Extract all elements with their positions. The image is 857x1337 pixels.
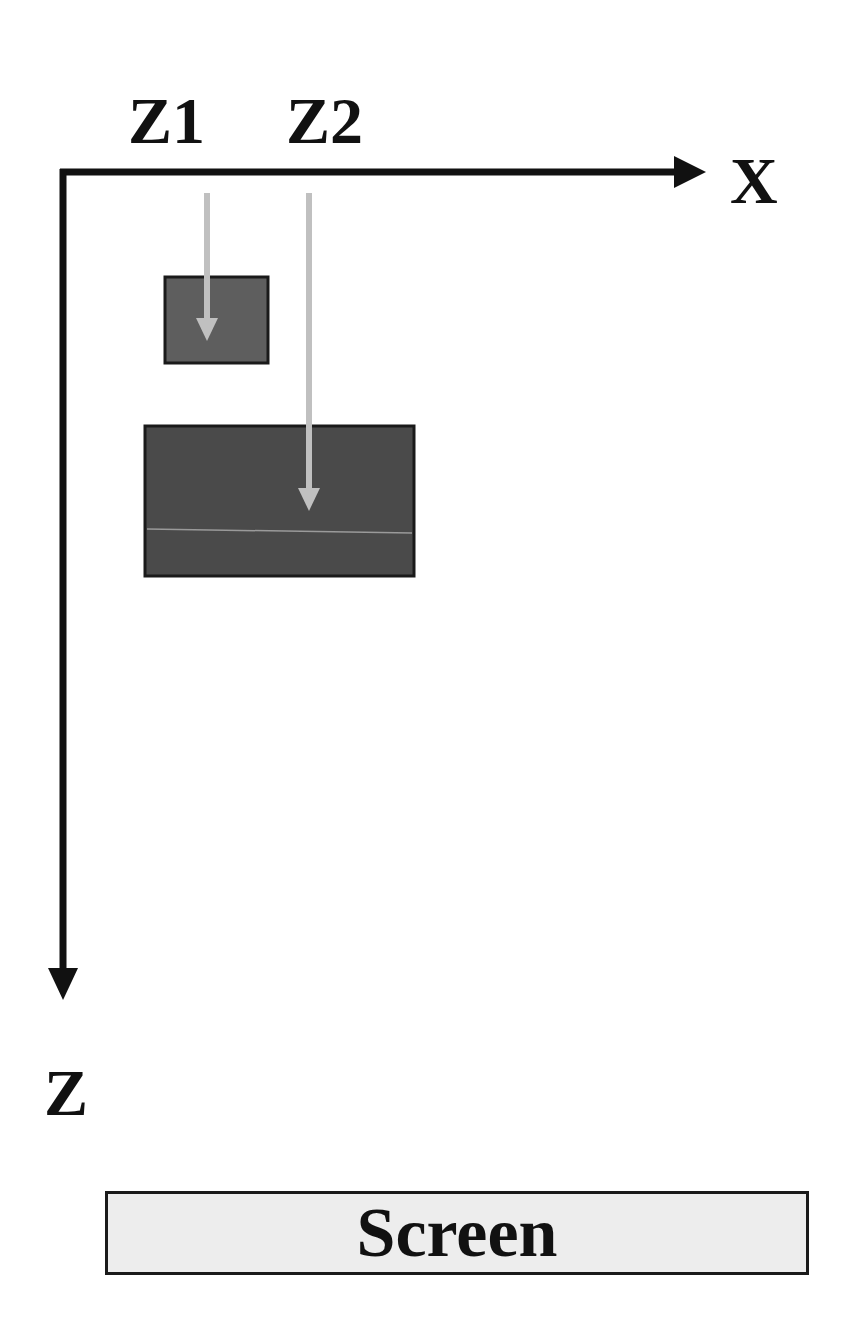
- z-axis-arrow: [48, 169, 78, 1000]
- far-object-box: [145, 426, 414, 576]
- depth-diagram: [0, 0, 857, 1337]
- x-axis-arrow: [60, 156, 706, 188]
- depth-arrow-z1: [196, 193, 218, 341]
- screen-box: Screen: [105, 1191, 809, 1275]
- screen-label: Screen: [357, 1198, 558, 1268]
